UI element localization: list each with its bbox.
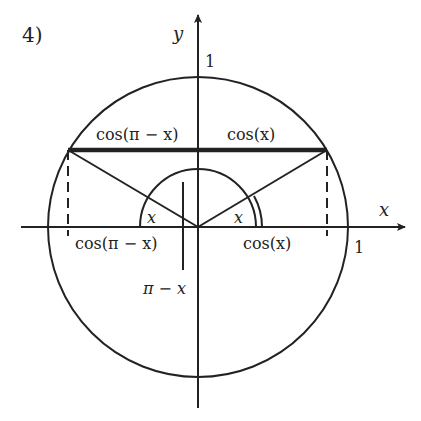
axis-right-segment-label: cos(x) [243,234,291,253]
obtuse-angle-label: π − x [142,279,186,298]
axis-left-segment-label: cos(π − x) [75,234,157,253]
top-right-segment-label: cos(x) [227,125,275,144]
radius-right [198,150,327,227]
top-left-segment-label: cos(π − x) [96,125,178,144]
x-axis-label: x [379,199,389,220]
y-axis-label: y [172,23,184,44]
left-angle-label: x [147,208,156,227]
y-unit-label: 1 [205,52,215,71]
unit-circle-diagram: 4) y 1 x 1 cos(π − x) cos(x) cos(π − x) … [0,0,421,421]
x-unit-label: 1 [354,238,364,257]
figure-number: 4) [22,23,43,47]
radius-left [68,150,198,227]
right-angle-label: x [234,208,243,227]
